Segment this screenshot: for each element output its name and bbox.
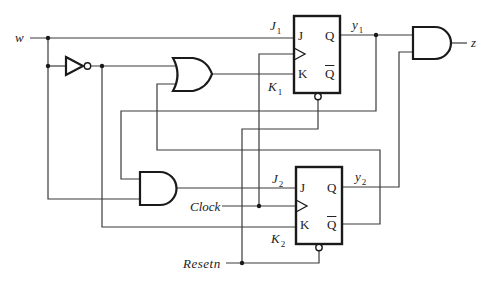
or-gate <box>173 58 212 91</box>
ff1-pin-k: K <box>298 67 307 80</box>
junction-dot <box>374 33 378 37</box>
ff2-pin-j: J <box>300 181 305 194</box>
and-gate-j2 <box>140 172 177 205</box>
ff2-pin-qbar: Q <box>327 218 336 231</box>
output-label-z: z <box>471 36 476 49</box>
and-gate-z <box>413 27 451 59</box>
junction-dot <box>46 36 50 40</box>
input-label-resetn: Resetn <box>183 257 221 270</box>
junction-dot <box>257 204 261 208</box>
label-k1: K1 <box>268 80 282 93</box>
junction-dot <box>240 261 244 265</box>
wire-reset <box>226 251 319 263</box>
label-y1: y1 <box>352 18 363 31</box>
wire-y2-to-and-z <box>342 52 413 187</box>
ff1-pin-j: J <box>298 29 303 42</box>
ff1-pin-qbar: Q <box>325 67 334 80</box>
wire-w-trunk <box>48 38 140 199</box>
junction-dot <box>46 64 50 68</box>
circuit-diagram: w Clock Resetn z J1 K1 y1 J K Q Q J2 K2 … <box>0 0 496 283</box>
circuit-svg <box>0 0 496 283</box>
input-label-w: w <box>15 31 24 44</box>
label-k2: K2 <box>271 232 285 245</box>
ff2-pin-k: K <box>300 218 309 231</box>
junction-dot <box>100 64 104 68</box>
label-y2: y2 <box>355 170 366 183</box>
label-j1: J1 <box>270 19 281 32</box>
label-j2: J2 <box>272 172 283 185</box>
ff2-pin-q: Q <box>327 181 336 194</box>
ff1-pin-q: Q <box>325 29 334 42</box>
input-label-clock: Clock <box>190 200 220 213</box>
inverter-gate <box>66 57 91 75</box>
